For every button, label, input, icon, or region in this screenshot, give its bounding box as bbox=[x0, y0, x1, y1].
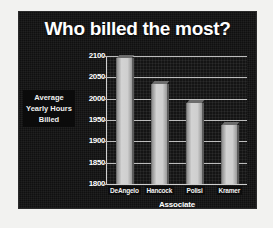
bar-front-face bbox=[221, 125, 237, 184]
y-axis-tick-labels: 2100205020001950190018501800 bbox=[71, 56, 105, 184]
bar bbox=[116, 55, 131, 184]
y-axis-title-line-1: Average bbox=[23, 92, 75, 103]
bar-front-face bbox=[116, 58, 132, 184]
x-axis-category-label: Polisi bbox=[185, 186, 205, 195]
y-axis-title-line-3: Billed bbox=[23, 114, 75, 125]
bar bbox=[151, 81, 166, 184]
x-axis-title-text: Associate bbox=[159, 200, 195, 209]
x-axis-category-label: DeAngelo bbox=[108, 186, 141, 195]
chart-title: Who billed the most? bbox=[19, 18, 256, 40]
x-axis-line bbox=[106, 184, 247, 185]
x-axis-title: Associate bbox=[107, 200, 247, 209]
presentation-slide: Who billed the most? Average Yearly Hour… bbox=[18, 11, 257, 209]
bar-front-face bbox=[151, 84, 167, 184]
y-axis-tick-mark bbox=[103, 141, 107, 142]
y-axis-tick-mark bbox=[103, 184, 107, 185]
y-axis-title-line-2: Yearly Hours bbox=[23, 103, 75, 114]
bar bbox=[221, 122, 236, 184]
screenshot-root: Who billed the most? Average Yearly Hour… bbox=[0, 0, 273, 228]
y-axis-tick-mark bbox=[103, 99, 107, 100]
y-axis-tick-mark bbox=[103, 56, 107, 57]
y-axis-tick-mark bbox=[103, 120, 107, 121]
x-axis-category-labels: DeAngeloHancockPolisiKramer bbox=[107, 186, 247, 196]
y-axis-tick-mark bbox=[103, 77, 107, 78]
x-axis-category-label: Hancock bbox=[145, 186, 175, 195]
x-axis-category-label: Kramer bbox=[217, 186, 243, 195]
y-axis-title: Average Yearly Hours Billed bbox=[23, 90, 75, 127]
plot-area bbox=[107, 56, 247, 184]
bar-front-face bbox=[186, 103, 202, 184]
bar bbox=[186, 100, 201, 184]
y-axis-tick-mark bbox=[103, 163, 107, 164]
